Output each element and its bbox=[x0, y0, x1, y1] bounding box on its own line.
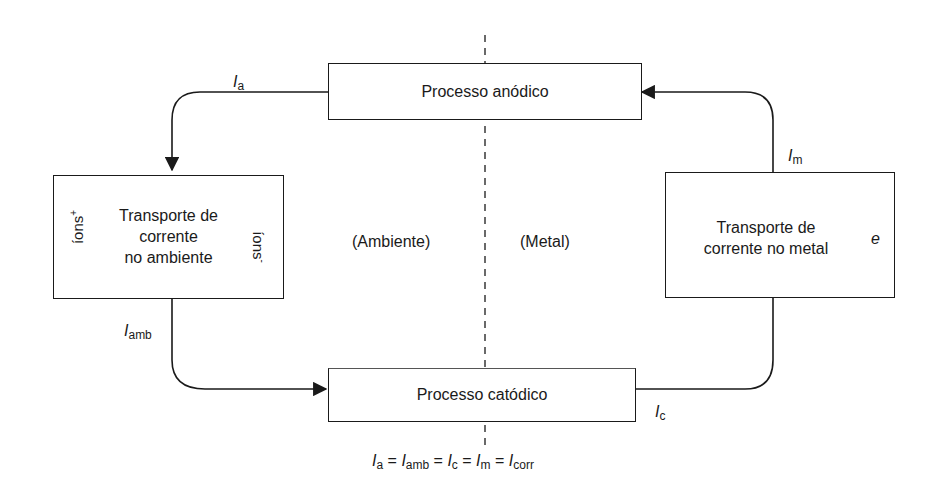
metal-transport-line-1: Transporte de bbox=[666, 217, 866, 238]
metal-transport-box: Transporte de corrente no metal bbox=[665, 172, 895, 298]
current-equality-equation: Ia = Iamb = Ic = Im = Icorr bbox=[372, 452, 534, 472]
region-ambient-label: (Ambiente) bbox=[352, 233, 430, 251]
current-cathodic-label: Ic bbox=[655, 403, 665, 423]
region-metal-label: (Metal) bbox=[520, 233, 570, 251]
ions-positive-label: íons+ bbox=[68, 202, 86, 252]
cathodic-process-label: Processo catódico bbox=[329, 384, 635, 405]
cathodic-process-box: Processo catódico bbox=[328, 368, 636, 422]
current-metal-label: Im bbox=[788, 147, 802, 167]
ambient-transport-line-1: Transporte de bbox=[54, 205, 283, 226]
arrow-anodic-to-ambient bbox=[172, 92, 328, 170]
arrow-ambient-to-cathodic bbox=[172, 298, 326, 389]
electron-label: e bbox=[871, 230, 880, 248]
ambient-transport-line-3: no ambiente bbox=[54, 247, 283, 268]
ions-negative-label: íons- bbox=[250, 222, 268, 272]
metal-transport-line-2: corrente no metal bbox=[666, 238, 866, 259]
arrow-metal-to-anodic bbox=[642, 92, 773, 172]
ambient-transport-line-2: corrente bbox=[54, 226, 283, 247]
current-ambient-label: Iamb bbox=[124, 322, 152, 342]
anodic-process-box: Processo anódico bbox=[328, 63, 642, 120]
current-anodic-label: Ia bbox=[233, 73, 244, 93]
anodic-process-label: Processo anódico bbox=[329, 81, 641, 102]
